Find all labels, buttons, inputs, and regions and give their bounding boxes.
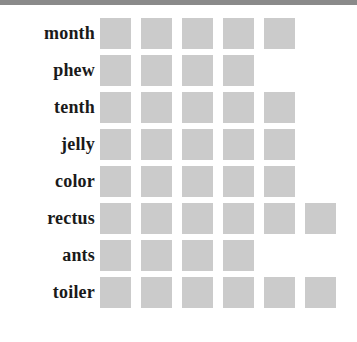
row-mark-square: [141, 129, 172, 160]
row-label: rectus: [0, 203, 95, 234]
chart-row: ants: [0, 240, 357, 271]
chart-row: color: [0, 166, 357, 197]
row-mark-square: [223, 240, 254, 271]
row-label: jelly: [0, 129, 95, 160]
row-mark-square: [100, 166, 131, 197]
row-mark-square: [182, 55, 213, 86]
row-marks: [100, 277, 346, 308]
row-mark-square: [223, 166, 254, 197]
row-marks: [100, 166, 305, 197]
chart-row: phew: [0, 55, 357, 86]
row-mark-square: [182, 166, 213, 197]
row-marks: [100, 240, 264, 271]
row-mark-square: [141, 18, 172, 49]
row-mark-square: [100, 55, 131, 86]
row-mark-square: [264, 277, 295, 308]
row-mark-square: [223, 55, 254, 86]
row-label: ants: [0, 240, 95, 271]
row-mark-square: [141, 92, 172, 123]
row-mark-square: [264, 203, 295, 234]
chart-row: month: [0, 18, 357, 49]
row-marks: [100, 55, 264, 86]
row-mark-square: [305, 277, 336, 308]
row-mark-square: [141, 55, 172, 86]
row-mark-square: [223, 277, 254, 308]
row-label: phew: [0, 55, 95, 86]
row-mark-square: [100, 18, 131, 49]
row-mark-square: [223, 129, 254, 160]
row-mark-square: [141, 166, 172, 197]
row-label: month: [0, 18, 95, 49]
row-mark-square: [223, 18, 254, 49]
row-mark-square: [264, 92, 295, 123]
row-mark-square: [305, 203, 336, 234]
row-mark-square: [141, 277, 172, 308]
row-mark-square: [223, 203, 254, 234]
chart-row: tenth: [0, 92, 357, 123]
row-label: toiler: [0, 277, 95, 308]
row-mark-square: [100, 203, 131, 234]
row-label: tenth: [0, 92, 95, 123]
row-mark-square: [182, 92, 213, 123]
chart-row: toiler: [0, 277, 357, 308]
row-mark-square: [223, 92, 254, 123]
chart-row: jelly: [0, 129, 357, 160]
row-mark-square: [182, 240, 213, 271]
row-marks: [100, 92, 305, 123]
row-mark-square: [182, 129, 213, 160]
row-mark-square: [264, 18, 295, 49]
row-mark-square: [182, 203, 213, 234]
row-mark-square: [182, 18, 213, 49]
row-mark-square: [264, 129, 295, 160]
row-mark-square: [141, 203, 172, 234]
chart-row: rectus: [0, 203, 357, 234]
row-mark-square: [182, 277, 213, 308]
pictogram-chart: monthphewtenthjellycolorrectusantstoiler: [0, 5, 357, 342]
row-label: color: [0, 166, 95, 197]
row-marks: [100, 18, 305, 49]
row-marks: [100, 129, 305, 160]
row-mark-square: [100, 240, 131, 271]
row-marks: [100, 203, 346, 234]
row-mark-square: [100, 92, 131, 123]
row-mark-square: [264, 166, 295, 197]
row-mark-square: [100, 129, 131, 160]
row-mark-square: [141, 240, 172, 271]
row-mark-square: [100, 277, 131, 308]
